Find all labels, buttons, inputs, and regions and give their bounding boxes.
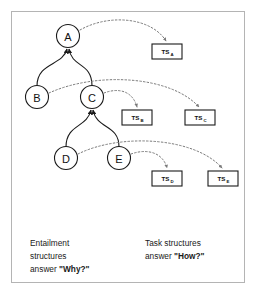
task-structure-e-subscript: E bbox=[227, 179, 230, 184]
node-c[interactable]: C bbox=[81, 86, 104, 109]
task-link-c-to-tsb bbox=[104, 91, 137, 107]
task-structure-d-subscript: D bbox=[171, 179, 174, 184]
task-caption-line2: answer "How?" bbox=[145, 250, 205, 263]
tree-edge-c-to-a bbox=[69, 49, 92, 86]
entailment-caption-question: "Why?" bbox=[59, 264, 89, 274]
task-link-a-to-tsa bbox=[80, 20, 166, 41]
task-structure-box-e[interactable]: TS E bbox=[208, 171, 238, 186]
node-e-label: E bbox=[115, 153, 122, 165]
node-d-label: D bbox=[62, 153, 70, 165]
tree-edges-group bbox=[37, 49, 119, 147]
entailment-caption-line3-prefix: answer bbox=[30, 264, 59, 274]
task-caption-question: "How?" bbox=[174, 251, 204, 261]
task-caption-line1: Task structures bbox=[145, 237, 205, 250]
entailment-caption-line1: Entailment bbox=[30, 237, 90, 250]
task-structure-b-label: TS bbox=[132, 114, 140, 121]
task-structure-b-subscript: B bbox=[141, 118, 144, 123]
task-structure-d-label: TS bbox=[162, 175, 170, 182]
node-b[interactable]: B bbox=[26, 86, 49, 109]
task-structure-box-c[interactable]: TS C bbox=[185, 110, 215, 125]
node-a-label: A bbox=[64, 31, 72, 43]
node-b-label: B bbox=[33, 92, 40, 104]
task-structure-a-subscript: A bbox=[171, 52, 174, 57]
tree-edge-e-to-c bbox=[93, 110, 119, 147]
task-structure-box-a[interactable]: TS A bbox=[152, 44, 182, 59]
nodes-group: A B C D E bbox=[26, 25, 131, 170]
task-structure-c-label: TS bbox=[195, 114, 203, 121]
task-structure-a-label: TS bbox=[162, 48, 170, 55]
task-structure-c-subscript: C bbox=[204, 118, 207, 123]
task-structure-box-b[interactable]: TS B bbox=[122, 110, 152, 125]
task-structure-boxes-group: TS A TS B TS C TS D TS E bbox=[122, 44, 238, 186]
task-link-b-to-tsc bbox=[49, 80, 199, 107]
task-caption-line2-prefix: answer bbox=[145, 251, 174, 261]
task-structure-box-d[interactable]: TS D bbox=[152, 171, 182, 186]
node-e[interactable]: E bbox=[108, 147, 131, 170]
tree-edge-b-to-a bbox=[37, 49, 67, 86]
figure-root: A B C D E TS A bbox=[0, 0, 261, 300]
task-caption: Task structures answer "How?" bbox=[145, 237, 205, 263]
task-link-e-to-tsd bbox=[131, 152, 167, 168]
node-c-label: C bbox=[88, 92, 96, 104]
task-structure-e-label: TS bbox=[218, 175, 226, 182]
tree-edge-d-to-c bbox=[66, 110, 91, 147]
node-d[interactable]: D bbox=[55, 147, 78, 170]
entailment-caption-line2: structures bbox=[30, 250, 90, 263]
entailment-caption: Entailment structures answer "Why?" bbox=[30, 237, 90, 276]
node-a[interactable]: A bbox=[57, 25, 80, 48]
task-link-d-to-tse bbox=[78, 141, 222, 168]
entailment-caption-line3: answer "Why?" bbox=[30, 263, 90, 276]
